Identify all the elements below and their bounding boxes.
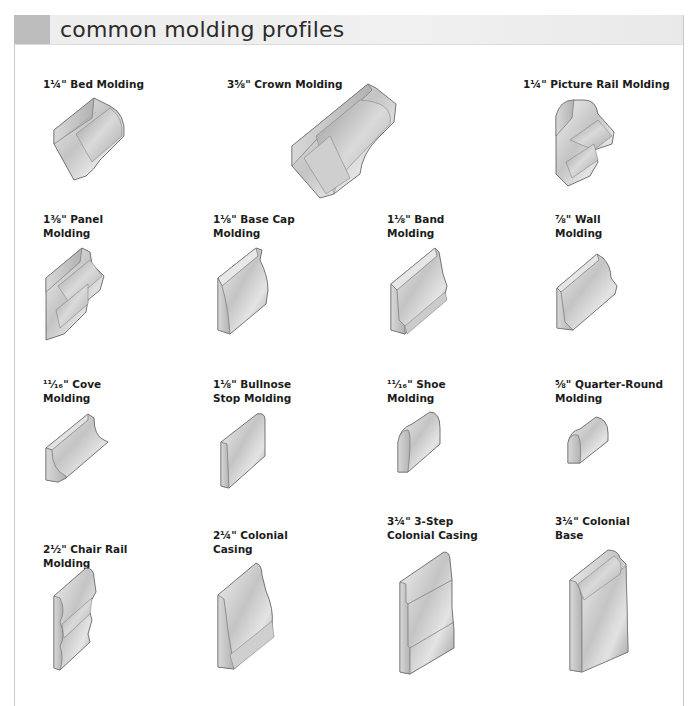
chair-rail-molding-illustration bbox=[52, 566, 108, 676]
molding-label: Casing bbox=[213, 543, 253, 557]
section-header: common molding profiles bbox=[14, 15, 683, 45]
molding-label: ¹¹⁄₁₆" Shoe bbox=[387, 378, 446, 392]
molding-label: 1⅛" Base Cap bbox=[213, 213, 295, 227]
page-title: common molding profiles bbox=[60, 15, 344, 44]
molding-label: Molding bbox=[387, 392, 434, 406]
molding-label: Stop Molding bbox=[213, 392, 291, 406]
molding-label: Molding bbox=[387, 227, 434, 241]
3-step-colonial-casing-illustration bbox=[398, 550, 462, 676]
cove-molding-illustration bbox=[44, 410, 114, 486]
molding-label: 1¼" Picture Rail Molding bbox=[523, 78, 670, 92]
quarter-round-molding-illustration bbox=[566, 415, 612, 467]
panel-molding-illustration bbox=[44, 246, 112, 342]
molding-label: 3¼" Colonial bbox=[555, 515, 630, 529]
molding-label: Molding bbox=[43, 227, 90, 241]
molding-label: 1⅜" Panel bbox=[43, 213, 103, 227]
molding-label: Molding bbox=[213, 227, 260, 241]
colonial-base-illustration bbox=[568, 548, 634, 676]
crown-molding-illustration bbox=[290, 82, 420, 200]
header-swatch bbox=[14, 15, 50, 44]
bed-molding-illustration bbox=[52, 96, 132, 176]
molding-label: ⅞" Wall bbox=[555, 213, 601, 227]
band-molding-illustration bbox=[389, 246, 461, 336]
picture-rail-molding-illustration bbox=[554, 96, 616, 188]
molding-label: Molding bbox=[43, 392, 90, 406]
molding-label: ¹¹⁄₁₆" Cove bbox=[43, 378, 101, 392]
molding-label: 1⅛" Bullnose bbox=[213, 378, 291, 392]
molding-label: Molding bbox=[555, 392, 602, 406]
molding-label: Base bbox=[555, 529, 583, 543]
molding-label: 1¼" Bed Molding bbox=[43, 78, 144, 92]
molding-label: Colonial Casing bbox=[387, 529, 478, 543]
bullnose-stop-molding-illustration bbox=[219, 412, 271, 492]
molding-label: ⅝" Quarter-Round bbox=[555, 378, 663, 392]
molding-label: 1⅛" Band bbox=[387, 213, 444, 227]
wall-molding-illustration bbox=[555, 250, 629, 332]
shoe-molding-illustration bbox=[396, 410, 446, 476]
molding-label: Molding bbox=[555, 227, 602, 241]
base-cap-molding-illustration bbox=[216, 246, 272, 336]
molding-label: 2¼" Colonial bbox=[213, 529, 288, 543]
colonial-casing-molding-illustration bbox=[216, 561, 278, 677]
molding-label: 2½" Chair Rail bbox=[43, 543, 127, 557]
molding-label: 3¼" 3-Step bbox=[387, 515, 453, 529]
